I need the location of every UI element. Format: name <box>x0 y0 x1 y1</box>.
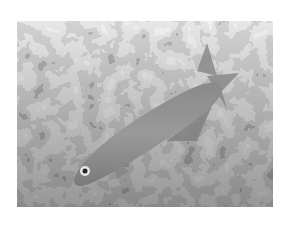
photo <box>17 21 273 207</box>
fish-photo-illustration <box>17 21 273 207</box>
